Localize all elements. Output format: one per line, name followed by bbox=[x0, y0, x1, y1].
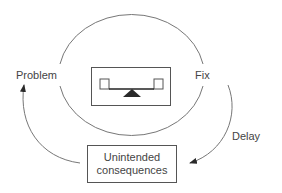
balance-box bbox=[91, 67, 171, 106]
unintended-line1: Unintended bbox=[104, 151, 160, 164]
balancing-loop-arc-top bbox=[60, 15, 203, 64]
unintended-line2: consequences bbox=[97, 164, 168, 177]
delay-label: Delay bbox=[232, 130, 260, 143]
delay-arrow bbox=[190, 85, 232, 163]
fix-label: Fix bbox=[195, 69, 210, 82]
problem-label: Problem bbox=[16, 69, 57, 82]
unintended-consequences-box: Unintended consequences bbox=[87, 145, 177, 183]
balance-scale-icon bbox=[92, 68, 170, 105]
feedback-arrow bbox=[23, 85, 80, 163]
